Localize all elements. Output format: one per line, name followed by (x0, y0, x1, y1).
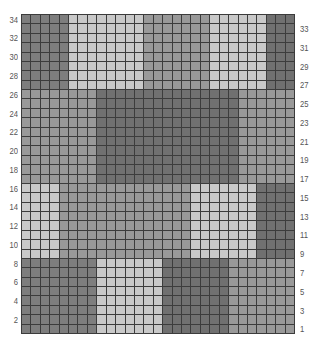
grid-cell (116, 325, 126, 334)
grid-cell (116, 137, 126, 146)
grid-cell (248, 71, 257, 81)
grid-cell (210, 240, 220, 250)
grid-cell (286, 71, 295, 81)
grid-cell (173, 240, 182, 250)
grid-cell (229, 99, 239, 109)
grid-cell (97, 287, 107, 296)
grid-cell (191, 109, 201, 118)
grid-cell (267, 99, 276, 109)
grid-cell (220, 24, 229, 34)
grid-cell (286, 212, 295, 221)
grid-cell (69, 268, 78, 278)
grid-cell (239, 118, 248, 128)
grid-cell (31, 62, 41, 71)
grid-cell (50, 315, 60, 325)
grid-cell (31, 278, 41, 287)
grid-cell (276, 250, 286, 259)
grid-cell (41, 156, 50, 165)
grid-cell (50, 296, 60, 306)
grid-cell (69, 109, 78, 118)
grid-cell (286, 15, 295, 24)
grid-cell (229, 212, 239, 221)
grid-cell (220, 212, 229, 221)
grid-cell (31, 90, 41, 99)
grid-cell (239, 221, 248, 231)
grid-cell (286, 315, 295, 325)
grid-cell (144, 128, 154, 137)
grid-cell (144, 306, 154, 315)
grid-cell (163, 81, 173, 90)
grid-cell (257, 203, 267, 212)
grid-cell (267, 165, 276, 175)
grid-cell (135, 212, 144, 221)
grid-cell (182, 43, 191, 53)
grid-cell (239, 175, 248, 184)
grid-cell (107, 184, 116, 193)
grid-cell (78, 315, 88, 325)
grid-cell (182, 231, 191, 240)
grid-cell (210, 24, 220, 34)
grid-cell (267, 137, 276, 146)
grid-cell (50, 250, 60, 259)
grid-cell (135, 156, 144, 165)
grid-cell (107, 43, 116, 53)
grid-cell (31, 306, 41, 315)
grid-cell (97, 203, 107, 212)
grid-cell (126, 278, 135, 287)
grid-cell (126, 325, 135, 334)
grid-cell (210, 306, 220, 315)
grid-cell (239, 165, 248, 175)
grid-cell (97, 325, 107, 334)
grid-cell (248, 193, 257, 203)
grid-cell (248, 43, 257, 53)
grid-cell (276, 109, 286, 118)
grid-cell (88, 53, 97, 62)
grid-cell (97, 315, 107, 325)
grid-cell (276, 287, 286, 296)
grid-cell (144, 53, 154, 62)
grid-cell (22, 99, 31, 109)
grid-cell (41, 81, 50, 90)
grid-cell (173, 306, 182, 315)
grid-cell (31, 165, 41, 175)
grid-cell (69, 221, 78, 231)
grid-cell (50, 137, 60, 146)
grid-cell (116, 24, 126, 34)
grid-cell (144, 165, 154, 175)
grid-cell (220, 53, 229, 62)
grid-cell (97, 250, 107, 259)
grid-cell (144, 62, 154, 71)
grid-cell (154, 109, 163, 118)
grid-cell (22, 231, 31, 240)
grid-cell (154, 231, 163, 240)
grid-cell (69, 175, 78, 184)
grid-cell (276, 306, 286, 315)
grid-cell (41, 306, 50, 315)
grid-cell (78, 34, 88, 43)
grid-cell (107, 175, 116, 184)
grid-cell (191, 325, 201, 334)
grid-cell (116, 62, 126, 71)
grid-cell (201, 165, 210, 175)
grid-cell (144, 118, 154, 128)
grid-cell (144, 184, 154, 193)
grid-cell (69, 34, 78, 43)
grid-cell (41, 296, 50, 306)
grid-cell (144, 175, 154, 184)
grid-cell (126, 259, 135, 268)
grid-cell (210, 231, 220, 240)
grid-cell (88, 306, 97, 315)
grid-cell (210, 203, 220, 212)
grid-cell (107, 212, 116, 221)
grid-cell (97, 15, 107, 24)
grid-cell (31, 259, 41, 268)
grid-cell (276, 325, 286, 334)
row-label: 20 (6, 146, 18, 156)
grid-cell (182, 99, 191, 109)
grid-cell (173, 156, 182, 165)
grid-cell (220, 81, 229, 90)
row-label: 26 (6, 90, 18, 100)
grid-cell (31, 315, 41, 325)
grid-cell (267, 278, 276, 287)
grid-cell (22, 24, 31, 34)
